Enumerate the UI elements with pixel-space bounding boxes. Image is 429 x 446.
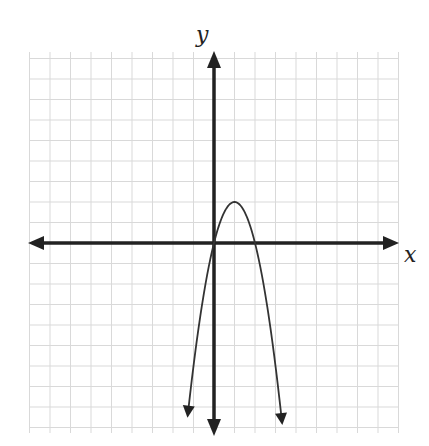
x-axis-label: x xyxy=(404,242,417,267)
curve-right-arrow-icon xyxy=(275,412,287,425)
coordinate-plane: y x xyxy=(0,0,429,446)
x-axis-right-arrow-icon xyxy=(383,236,399,250)
y-axis-label: y xyxy=(195,22,209,47)
y-axis-up-arrow-icon xyxy=(207,51,221,68)
curve-left-arrow-icon xyxy=(183,405,195,418)
x-axis-left-arrow-icon xyxy=(28,236,44,250)
